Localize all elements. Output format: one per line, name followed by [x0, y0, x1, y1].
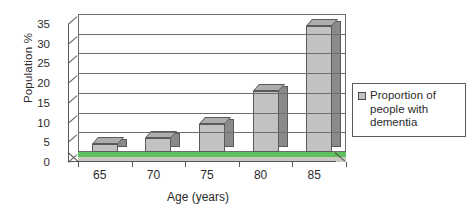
gridline [78, 34, 346, 35]
bar-front-face [145, 138, 171, 152]
bar-top-face [253, 84, 285, 91]
legend-entry-label: Proportion of people with dementia [370, 89, 459, 130]
y-axis-tick-label: 15 [22, 98, 50, 109]
y-axis-tick-label: 10 [22, 118, 50, 129]
y-axis-tick-label: 30 [22, 39, 50, 50]
x-axis-tick-label: 65 [83, 168, 117, 182]
x-axis-tick [346, 162, 347, 167]
x-axis-tick-labels: 6570758085 [68, 168, 358, 184]
y-axis-tick-label: 5 [22, 137, 50, 148]
gridline [78, 53, 346, 54]
x-axis-tick [239, 162, 240, 167]
x-axis-tick [132, 162, 133, 167]
bar-65[interactable] [92, 137, 118, 152]
bar-80[interactable] [253, 84, 279, 152]
y-axis-tick-label: 35 [22, 19, 50, 30]
plot-area [68, 14, 346, 162]
x-axis-tick-label: 85 [297, 168, 331, 182]
bar-front-face [92, 144, 118, 152]
bar-side-face [279, 86, 288, 147]
bar-front-face [253, 91, 279, 152]
gridline [78, 93, 346, 94]
x-axis-tick [185, 162, 186, 167]
bars-layer [68, 14, 346, 162]
bar-75[interactable] [199, 117, 225, 152]
bar-chart: Population % 05101520253035 6570758085 A… [0, 0, 474, 220]
gridline [78, 113, 346, 114]
bar-front-face [199, 124, 225, 152]
y-axis-tick-labels: 05101520253035 [22, 14, 50, 162]
gridline [78, 14, 346, 15]
legend-entry: Proportion of people with dementia [358, 89, 459, 130]
gridline [78, 132, 346, 133]
x-axis-tick-label: 75 [190, 168, 224, 182]
bar-70[interactable] [145, 131, 171, 152]
x-axis-title: Age (years) [88, 190, 308, 204]
x-axis-tick-label: 80 [244, 168, 278, 182]
chart-legend: Proportion of people with dementia [352, 83, 466, 137]
y-axis-tick-label: 25 [22, 58, 50, 69]
gridline [78, 73, 346, 74]
legend-swatch-icon [358, 92, 366, 100]
x-axis-tick-label: 70 [136, 168, 170, 182]
bar-side-face [332, 21, 341, 147]
x-axis-tick [78, 162, 79, 167]
y-axis-tick-label: 0 [22, 157, 50, 168]
x-axis-tick [292, 162, 293, 167]
y-axis-tick-label: 20 [22, 78, 50, 89]
